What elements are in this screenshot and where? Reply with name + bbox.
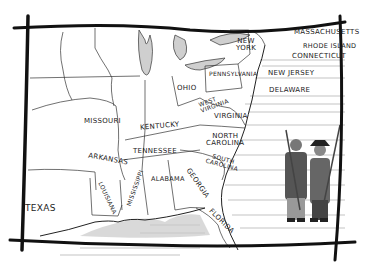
state-label-ohio: OHIO bbox=[177, 85, 197, 92]
soldier-right bbox=[310, 125, 340, 222]
state-label-north-carolina: NORTHCAROLINA bbox=[206, 133, 244, 147]
state-label-new-jersey: NEW JERSEY bbox=[268, 70, 314, 77]
colonial-soldiers-illustration bbox=[285, 125, 340, 222]
great-lakes bbox=[138, 30, 250, 75]
state-label-missouri: MISSOURI bbox=[84, 118, 121, 125]
state-label-alabama: ALABAMA bbox=[151, 176, 185, 183]
state-label-delaware: DELAWARE bbox=[269, 87, 310, 94]
state-label-tennessee: TENNESSEE bbox=[133, 148, 177, 155]
state-label-connecticut: CONNECTICUT bbox=[292, 53, 346, 60]
state-label-virginia: VIRGINIA bbox=[214, 113, 248, 120]
gulf-of-mexico-shading bbox=[80, 214, 210, 237]
state-label-rhode-island: RHODE ISLAND bbox=[303, 43, 356, 50]
state-label-new-york: NEWYORK bbox=[236, 38, 256, 52]
soldier-left bbox=[285, 130, 307, 222]
state-label-massachusetts: MASSACHUSETTS bbox=[294, 29, 359, 36]
state-label-pennsylvania: PENNSYLVANIA bbox=[209, 71, 257, 77]
state-label-texas: TEXAS bbox=[25, 204, 56, 213]
